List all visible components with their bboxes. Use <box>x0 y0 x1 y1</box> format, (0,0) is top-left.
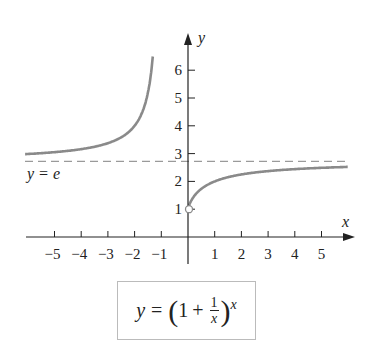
formula-exponent: x <box>231 297 237 313</box>
formula-box: y = ( 1 + 1 x ) x <box>117 281 256 340</box>
left-branch-curve <box>25 57 153 155</box>
x-tick-label: −4 <box>71 246 87 262</box>
y-tick-label: 1 <box>175 201 183 217</box>
x-axis-arrow-icon <box>343 233 355 241</box>
x-tick-label: 5 <box>318 246 326 262</box>
y-tick-label: 4 <box>175 118 183 134</box>
paren-open: ( <box>168 296 178 326</box>
x-tick-label: 1 <box>211 246 219 262</box>
asymptote-label: y = e <box>25 165 60 183</box>
x-tick-label: −1 <box>151 246 167 262</box>
formula-plus: + <box>192 299 203 322</box>
function-plot: −5−4−3−2−112345123456yxy = e <box>0 0 369 280</box>
y-axis-label: y <box>196 29 206 47</box>
x-tick-label: −3 <box>98 246 114 262</box>
formula-one: 1 <box>178 299 188 322</box>
formula-y: y <box>136 299 145 322</box>
paren-close: ) <box>221 296 231 326</box>
x-tick-label: 4 <box>291 246 299 262</box>
y-tick-label: 5 <box>175 90 183 106</box>
y-tick-label: 3 <box>175 146 183 162</box>
x-axis-label: x <box>341 213 349 230</box>
x-tick-label: −2 <box>125 246 141 262</box>
fraction-denominator: x <box>211 311 217 326</box>
y-tick-label: 6 <box>175 62 183 78</box>
formula-equals: = <box>151 299 162 322</box>
right-branch-curve <box>188 167 348 209</box>
open-point-marker <box>186 206 193 213</box>
fraction: 1 x <box>210 296 219 326</box>
x-tick-label: 3 <box>264 246 272 262</box>
fraction-numerator: 1 <box>210 296 219 311</box>
x-tick-label: 2 <box>238 246 246 262</box>
y-axis-arrow-icon <box>184 33 192 45</box>
y-tick-label: 2 <box>175 173 183 189</box>
x-tick-label: −5 <box>45 246 61 262</box>
